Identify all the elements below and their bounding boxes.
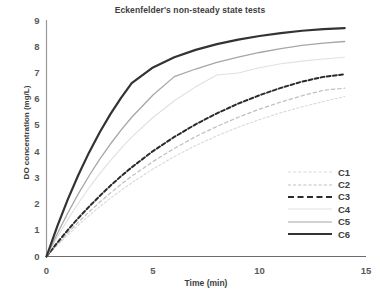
legend-label-c3: C3 xyxy=(332,191,350,202)
legend-item-c1[interactable]: C1 xyxy=(288,166,374,178)
legend-item-c6[interactable]: C6 xyxy=(288,228,374,240)
legend-label-c2: C2 xyxy=(332,179,350,190)
x-axis-title: Time (min) xyxy=(46,278,366,288)
y-tick-label: 9 xyxy=(26,15,40,26)
y-tick-label: 8 xyxy=(26,41,40,52)
legend-swatch-c3 xyxy=(288,192,332,202)
plot-area xyxy=(0,0,380,297)
legend-item-c2[interactable]: C2 xyxy=(288,178,374,190)
legend-item-c5[interactable]: C5 xyxy=(288,216,374,228)
y-axis-title: DO concentration (mg/L) xyxy=(22,63,31,203)
legend-label-c5: C5 xyxy=(332,216,350,227)
legend-swatch-c1 xyxy=(288,167,332,177)
legend-label-c4: C4 xyxy=(332,204,350,215)
legend-swatch-c2 xyxy=(288,180,332,190)
y-tick-label: 0 xyxy=(26,251,40,262)
legend-label-c1: C1 xyxy=(332,167,350,178)
x-tick-label: 10 xyxy=(252,265,268,276)
y-tick-label: 1 xyxy=(26,224,40,235)
legend-swatch-c4 xyxy=(288,204,332,214)
legend-item-c4[interactable]: C4 xyxy=(288,203,374,215)
chart-container: Eckenfelder's non-steady state tests 012… xyxy=(0,0,380,297)
chart-legend: C1C2C3C4C5C6 xyxy=(288,166,374,240)
x-tick-label: 5 xyxy=(145,265,161,276)
legend-item-c3[interactable]: C3 xyxy=(288,191,374,203)
legend-label-c6: C6 xyxy=(332,229,350,240)
x-tick-label: 0 xyxy=(39,265,55,276)
x-tick-label: 15 xyxy=(358,265,374,276)
legend-swatch-c6 xyxy=(288,229,332,239)
legend-swatch-c5 xyxy=(288,217,332,227)
